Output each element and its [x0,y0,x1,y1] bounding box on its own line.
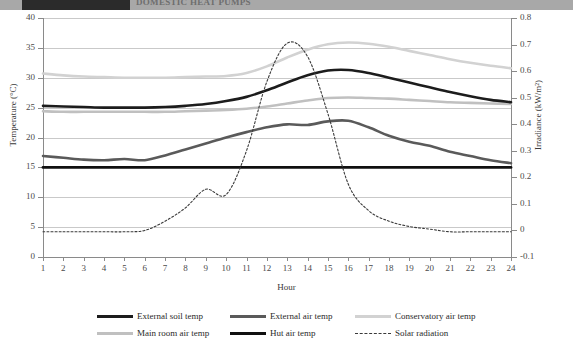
x-axis-tick [287,257,288,261]
legend-label: External air temp [270,311,332,321]
x-axis-tick-label: 6 [135,263,155,273]
legend-swatch-icon [97,315,133,318]
x-axis-tick-label: 17 [359,263,379,273]
legend-swatch-icon [230,315,266,318]
chart-legend: External soil tempExternal air tempConse… [0,306,573,340]
x-axis-tick [348,257,349,261]
x-axis-tick [328,257,329,261]
x-axis-tick-label: 5 [114,263,134,273]
y-axis-right-tick [512,45,517,46]
legend-label: Conservatory air temp [395,311,475,321]
x-axis-tick-label: 10 [216,263,236,273]
y-axis-left-tick-label: 0 [5,251,35,261]
x-axis-tick-label: 24 [501,263,521,273]
y-axis-left-tick-label: 35 [5,42,35,52]
x-axis-tick [104,257,105,261]
legend-item[interactable]: Main room air temp [97,323,209,339]
series-curves [43,18,511,257]
x-axis-tick [145,257,146,261]
y-axis-right-tick-label: 0.7 [520,39,550,49]
x-axis-tick-label: 19 [399,263,419,273]
x-axis-tick [389,257,390,261]
y-axis-left-title: Temperature (°C) [8,60,18,170]
legend-item[interactable]: External air temp [230,306,332,322]
series-line [43,42,511,77]
y-axis-right-title: Irradiance (kW/m²) [533,60,543,170]
y-axis-right-line [511,18,512,257]
x-axis-tick-label: 11 [237,263,257,273]
x-axis-tick-label: 9 [196,263,216,273]
page-header-band: DOMESTIC HEAT PUMPS [0,0,573,10]
legend-item[interactable]: Conservatory air temp [355,306,475,322]
y-axis-right-tick [512,177,517,178]
y-axis-right-tick [512,151,517,152]
legend-swatch-icon [230,332,266,335]
legend-swatch-icon [355,315,391,318]
legend-item[interactable]: Hut air temp [230,323,316,339]
x-axis-tick-label: 7 [155,263,175,273]
y-axis-right-tick [512,71,517,72]
y-axis-right-tick [512,98,517,99]
legend-swatch-icon [355,333,391,334]
x-axis-tick-label: 18 [379,263,399,273]
x-axis-tick-label: 13 [277,263,297,273]
header-title: DOMESTIC HEAT PUMPS [136,0,251,7]
x-axis-tick [124,257,125,261]
y-axis-right-tick-label: 0 [520,224,550,234]
x-axis-tick-label: 4 [94,263,114,273]
x-axis-tick [470,257,471,261]
x-axis-tick [165,257,166,261]
x-axis-tick [267,257,268,261]
x-axis-tick [511,257,512,261]
legend-row: External soil tempExternal air tempConse… [0,306,573,322]
y-axis-right-tick-label: 0.1 [520,198,550,208]
x-axis-title: Hour [0,282,573,292]
y-axis-left-tick-label: 5 [5,221,35,231]
chart-figure: DOMESTIC HEAT PUMPS 0510152025303540 -0.… [0,0,573,343]
series-line [43,120,511,163]
x-axis-tick-label: 14 [298,263,318,273]
x-axis-tick [206,257,207,261]
legend-label: External soil temp [137,311,203,321]
x-axis-tick-label: 12 [257,263,277,273]
x-axis-tick [84,257,85,261]
x-axis-tick-label: 22 [460,263,480,273]
y-axis-right-tick [512,257,517,258]
x-axis-tick-label: 23 [481,263,501,273]
y-axis-right-tick [512,230,517,231]
x-axis-tick [43,257,44,261]
x-axis-tick [226,257,227,261]
x-axis-tick-label: 21 [440,263,460,273]
x-axis-tick-label: 2 [53,263,73,273]
x-axis-tick-label: 1 [33,263,53,273]
series-line [43,42,511,232]
y-axis-right-tick-label: 0.8 [520,12,550,22]
x-axis-tick [63,257,64,261]
legend-label: Solar radiation [395,328,448,338]
y-axis-right-tick [512,124,517,125]
x-axis-tick-label: 20 [420,263,440,273]
x-axis-tick [308,257,309,261]
x-axis-tick [450,257,451,261]
y-axis-left-tick-label: 10 [5,191,35,201]
y-axis-right-tick-label: -0.1 [520,251,550,261]
header-dark-block [22,0,130,10]
x-axis-tick [369,257,370,261]
x-axis-tick-label: 3 [74,263,94,273]
legend-item[interactable]: External soil temp [97,306,203,322]
x-axis-tick-label: 8 [175,263,195,273]
x-axis-tick [430,257,431,261]
series-line [43,97,511,111]
x-axis-tick [247,257,248,261]
x-axis-tick [409,257,410,261]
legend-label: Main room air temp [137,328,209,338]
x-axis-tick [491,257,492,261]
legend-item[interactable]: Solar radiation [355,323,448,339]
legend-label: Hut air temp [270,328,316,338]
x-axis-tick-label: 16 [338,263,358,273]
y-axis-left-tick-label: 40 [5,12,35,22]
y-axis-right-tick [512,204,517,205]
legend-row: Main room air tempHut air tempSolar radi… [0,323,573,339]
y-axis-right-tick [512,18,517,19]
x-axis-line [43,257,512,258]
